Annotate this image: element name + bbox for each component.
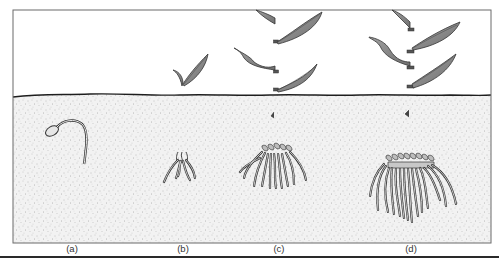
panel-label-d: (d) [405,243,417,254]
bottom-divider-rule [0,256,499,258]
panel-label-b: (b) [177,243,189,254]
panel-label-c: (c) [273,243,284,254]
panel-label-a: (a) [66,243,78,254]
seedling-growth-illustration [0,0,499,266]
